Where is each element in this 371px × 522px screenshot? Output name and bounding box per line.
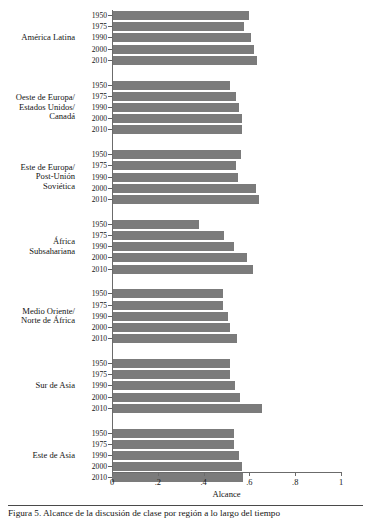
bar xyxy=(112,289,223,298)
bar xyxy=(112,11,249,20)
bar-row: 2000 xyxy=(0,113,371,124)
bar-row: 2000 xyxy=(0,44,371,55)
x-axis-tick xyxy=(204,472,205,476)
bar-group: Oeste de Europa/Estados Unidos/Canadá195… xyxy=(0,80,371,136)
bar-row-year-label: 1990 xyxy=(60,450,107,461)
bar xyxy=(112,334,237,343)
bar xyxy=(112,195,259,204)
bar-row-year-label: 1990 xyxy=(60,311,107,322)
bar-row: 1975 xyxy=(0,439,371,450)
x-axis-tick xyxy=(112,472,113,476)
bar-row-year-label: 2000 xyxy=(60,392,107,403)
bar-row: 1975 xyxy=(0,230,371,241)
bar-group: ÁfricaSubsahariana19501975199020002010 xyxy=(0,219,371,275)
bar-row: 2000 xyxy=(0,322,371,333)
x-axis-tick xyxy=(295,472,296,476)
bar xyxy=(112,22,244,31)
bar-row: 2000 xyxy=(0,461,371,472)
x-axis-tick-label: .2 xyxy=(143,478,173,488)
bar xyxy=(112,370,230,379)
bar-row-year-label: 2000 xyxy=(60,44,107,55)
bar-row: 1950 xyxy=(0,219,371,230)
bar-group: América Latina19501975199020002010 xyxy=(0,10,371,66)
x-axis-tick-label: .8 xyxy=(280,478,310,488)
x-axis-tick-label: 0 xyxy=(97,478,127,488)
bar xyxy=(112,301,223,310)
bar-group: Este de Europa/Post-UniónSoviética195019… xyxy=(0,149,371,205)
bar-chart-plot-area: América Latina19501975199020002010Oeste … xyxy=(0,0,371,480)
bar-row-year-label: 1990 xyxy=(60,102,107,113)
bar-row: 2000 xyxy=(0,183,371,194)
bar-row: 1950 xyxy=(0,358,371,369)
x-axis-tick xyxy=(158,472,159,476)
bar-row-year-label: 1975 xyxy=(60,91,107,102)
x-axis-line xyxy=(112,472,341,473)
bar xyxy=(112,231,224,240)
bar xyxy=(112,312,228,321)
x-axis-tick xyxy=(341,472,342,476)
bar-row-year-label: 1950 xyxy=(60,288,107,299)
bar xyxy=(112,440,234,449)
bar-row-year-label: 2000 xyxy=(60,183,107,194)
caption-divider xyxy=(8,505,363,506)
bar-row-year-label: 2010 xyxy=(60,333,107,344)
bar xyxy=(112,173,238,182)
bar xyxy=(112,462,242,471)
bar-row: 1950 xyxy=(0,80,371,91)
bar xyxy=(112,45,254,54)
bar-row-year-label: 1950 xyxy=(60,358,107,369)
bar-row-year-label: 1975 xyxy=(60,300,107,311)
bar-group: Sur de Asia19501975199020002010 xyxy=(0,358,371,414)
bar-row-year-label: 2010 xyxy=(60,124,107,135)
bar-row-year-label: 2000 xyxy=(60,252,107,263)
bar-row: 1990 xyxy=(0,172,371,183)
x-axis-tick xyxy=(249,472,250,476)
bar-row: 1950 xyxy=(0,428,371,439)
x-axis-title: Alcance xyxy=(112,489,341,499)
bar-row: 2010 xyxy=(0,403,371,414)
bar xyxy=(112,103,239,112)
bar xyxy=(112,404,262,413)
bar-row: 1990 xyxy=(0,311,371,322)
bar-row: 2010 xyxy=(0,194,371,205)
bar-row: 2010 xyxy=(0,55,371,66)
bar-row: 1975 xyxy=(0,91,371,102)
bar xyxy=(112,81,230,90)
bar xyxy=(112,92,236,101)
x-axis-tick-label: .4 xyxy=(189,478,219,488)
bar xyxy=(112,125,242,134)
bar-row-year-label: 1950 xyxy=(60,219,107,230)
bar-group: Medio Oriente/Norte de África19501975199… xyxy=(0,288,371,344)
bar xyxy=(112,56,257,65)
bar-row: 1950 xyxy=(0,149,371,160)
bar-row-year-label: 1950 xyxy=(60,80,107,91)
bar xyxy=(112,33,251,42)
bar xyxy=(112,150,241,159)
bar xyxy=(112,161,236,170)
y-axis-line xyxy=(112,10,113,472)
bar xyxy=(112,381,235,390)
bar-row-year-label: 1950 xyxy=(60,10,107,21)
bar xyxy=(112,429,234,438)
bar-row-year-label: 2000 xyxy=(60,461,107,472)
bar-row: 2010 xyxy=(0,333,371,344)
bar-row: 2010 xyxy=(0,124,371,135)
bar-row-year-label: 1975 xyxy=(60,439,107,450)
bar xyxy=(112,253,247,262)
bar-row: 1990 xyxy=(0,102,371,113)
bar xyxy=(112,114,242,123)
bar-row: 1975 xyxy=(0,300,371,311)
figure-container: América Latina19501975199020002010Oeste … xyxy=(0,0,371,522)
bar-row-year-label: 1950 xyxy=(60,428,107,439)
bar-row-year-label: 1990 xyxy=(60,241,107,252)
bar-row-year-label: 1950 xyxy=(60,149,107,160)
bar-row: 1990 xyxy=(0,450,371,461)
bar-row-year-label: 1975 xyxy=(60,369,107,380)
bar-row: 1950 xyxy=(0,10,371,21)
bar xyxy=(112,265,253,274)
bar-row: 2010 xyxy=(0,472,371,483)
bar-row: 1990 xyxy=(0,32,371,43)
x-axis-tick-label: 1 xyxy=(326,478,356,488)
bar xyxy=(112,473,243,482)
bar xyxy=(112,451,239,460)
